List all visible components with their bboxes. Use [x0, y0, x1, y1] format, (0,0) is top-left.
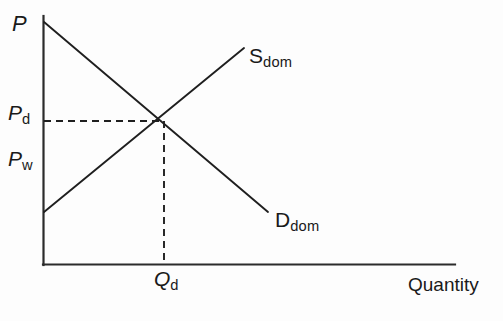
quantity-marker-qd-subscript: d	[170, 277, 178, 293]
quantity-marker-qd-base: Q	[154, 267, 170, 290]
supply-curve-label: Sdom	[249, 45, 292, 66]
price-marker-pd: Pd	[8, 102, 30, 123]
price-marker-pw-base: P	[8, 147, 22, 170]
supply-curve	[44, 48, 244, 212]
demand-curve-label-base: D	[275, 208, 290, 231]
price-marker-pw: Pw	[8, 148, 33, 169]
x-axis-label: Quantity	[408, 275, 479, 294]
y-axis-label: P	[12, 13, 27, 35]
demand-curve-label-subscript: dom	[290, 218, 319, 234]
price-marker-pd-base: P	[8, 101, 22, 124]
quantity-marker-qd: Qd	[154, 268, 179, 289]
price-marker-pw-subscript: w	[22, 157, 33, 173]
supply-curve-label-base: S	[249, 44, 263, 67]
supply-curve-label-subscript: dom	[263, 54, 292, 70]
price-marker-pd-subscript: d	[22, 111, 30, 127]
supply-demand-figure: P Pd Pw Qd Sdom Ddom Quantity	[0, 0, 503, 321]
demand-curve-label: Ddom	[275, 209, 319, 230]
